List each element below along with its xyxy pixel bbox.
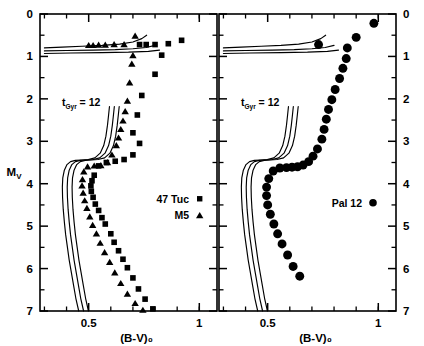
data-point-circle	[322, 115, 331, 124]
data-point-circle	[283, 251, 292, 260]
data-point-triangle	[119, 117, 126, 123]
data-point-square	[99, 215, 105, 221]
data-point-triangle	[129, 52, 136, 58]
data-point-square	[130, 152, 136, 158]
legend-marker-square	[197, 196, 202, 201]
legend-label-pal-12: Pal 12	[332, 197, 363, 209]
legend-label-m5: M5	[174, 209, 189, 221]
data-point-circle	[263, 200, 272, 209]
ytick-label-left: 6	[27, 263, 33, 275]
ytick-label-left: 1	[27, 50, 34, 62]
data-point-square	[137, 141, 143, 147]
data-point-square	[120, 256, 126, 262]
ytick-label-left: 5	[27, 220, 34, 232]
data-point-square	[88, 183, 94, 189]
data-point-square	[89, 189, 95, 195]
data-point-square	[96, 208, 102, 214]
data-point-square	[108, 231, 114, 237]
data-point-square	[159, 52, 165, 58]
legend-marker-triangle	[196, 212, 203, 218]
age-annotation-right: tGyr = 12	[241, 96, 280, 111]
xtick-label: 0.5	[81, 317, 98, 329]
figure-canvas: 0.51(B-V)₀0.51(B-V)₀0011223344556677MVtG…	[0, 0, 424, 346]
data-point-triangle	[79, 176, 86, 182]
data-point-circle	[273, 229, 282, 238]
data-point-triangle	[126, 79, 133, 85]
data-point-circle	[262, 191, 271, 200]
data-point-circle	[352, 33, 361, 42]
ytick-label-left: 2	[27, 93, 33, 105]
data-point-square	[137, 42, 143, 48]
data-point-triangle	[84, 163, 91, 169]
data-point-square	[93, 201, 99, 207]
data-point-square	[89, 178, 95, 184]
data-point-triangle	[89, 222, 96, 228]
legend-label-47-tuc: 47 Tuc	[157, 193, 190, 205]
ytick-label-right: 7	[403, 305, 409, 317]
ytick-label-left: 7	[27, 305, 33, 317]
data-point-triangle	[101, 249, 108, 255]
data-point-square	[102, 221, 108, 227]
data-point-square	[111, 239, 117, 245]
data-point-square	[130, 275, 136, 281]
xtick-label: 0.5	[260, 317, 277, 329]
x-axis-label: (B-V)₀	[120, 332, 153, 344]
data-point-square	[179, 38, 185, 44]
data-point-square	[121, 157, 127, 163]
data-point-square	[130, 130, 136, 136]
data-point-circle	[317, 135, 326, 144]
data-point-square	[142, 296, 148, 302]
ytick-label-right: 1	[403, 50, 410, 62]
data-point-circle	[342, 54, 351, 63]
ytick-label-right: 4	[403, 178, 410, 190]
ytick-label-right: 2	[403, 93, 409, 105]
ytick-label-left: 0	[27, 8, 33, 20]
data-point-triangle	[78, 182, 85, 188]
data-point-circle	[338, 64, 347, 73]
data-point-circle	[289, 262, 298, 271]
y-axis-label: MV	[7, 166, 23, 181]
data-point-triangle	[111, 269, 118, 275]
data-point-triangle	[124, 98, 131, 104]
data-point-triangle	[81, 197, 88, 203]
data-point-circle	[369, 19, 378, 28]
ytick-label-left: 3	[27, 135, 33, 147]
ytick-label-right: 0	[403, 8, 409, 20]
data-point-circle	[324, 105, 333, 114]
data-point-circle	[343, 43, 352, 52]
data-point-circle	[269, 220, 278, 229]
data-point-circle	[264, 174, 273, 183]
data-point-triangle	[117, 280, 124, 286]
data-point-triangle	[79, 190, 86, 196]
ytick-label-right: 5	[403, 220, 410, 232]
data-point-square	[152, 42, 158, 48]
isochrone-curve	[223, 35, 325, 48]
data-point-triangle	[139, 307, 146, 313]
data-point-circle	[331, 85, 340, 94]
data-point-square	[125, 265, 131, 271]
data-point-triangle	[131, 300, 138, 306]
data-point-square	[135, 112, 141, 118]
x-axis-label: (B-V)₀	[299, 332, 332, 344]
data-point-triangle	[131, 33, 138, 39]
data-point-triangle	[128, 61, 135, 67]
data-point-square	[112, 158, 118, 164]
legend-marker-circle	[369, 199, 377, 207]
xtick-label: 1	[375, 317, 382, 329]
isochrone-curve	[241, 106, 288, 311]
data-point-circle	[314, 40, 323, 49]
isochrone-curve	[251, 106, 298, 311]
data-point-triangle	[93, 230, 100, 236]
ytick-label-left: 4	[27, 178, 34, 190]
isochrone-curve	[72, 106, 119, 311]
data-point-triangle	[83, 205, 90, 211]
data-point-square	[116, 248, 122, 254]
data-point-circle	[278, 240, 287, 249]
age-annotation-left: tGyr = 12	[62, 96, 101, 111]
data-point-triangle	[96, 240, 103, 246]
ytick-label-right: 3	[403, 135, 409, 147]
data-point-circle	[295, 272, 304, 281]
data-point-circle	[262, 183, 271, 192]
data-point-square	[143, 42, 149, 48]
data-point-circle	[266, 210, 275, 219]
